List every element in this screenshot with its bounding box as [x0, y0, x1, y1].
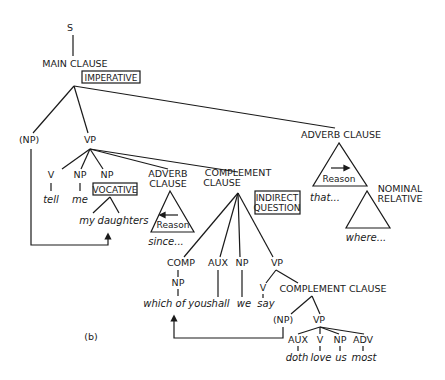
- node-complement-clause-line2: CLAUSE: [203, 177, 241, 188]
- syntax-tree-diagram: S MAIN CLAUSE IMPERATIVE (NP) VP V tell …: [0, 0, 445, 380]
- edge: [184, 193, 238, 257]
- label-reason-2: Reason: [323, 174, 356, 184]
- node-vp-inner: VP: [313, 314, 325, 325]
- node-np-subject: (NP): [19, 134, 39, 145]
- word-tell: tell: [43, 194, 59, 205]
- word-which-of-you: which of you: [143, 298, 207, 309]
- node-comp-np: NP: [172, 277, 185, 288]
- word-love: love: [311, 352, 332, 363]
- word-me: me: [72, 194, 88, 205]
- label-imperative: IMPERATIVE: [85, 73, 138, 83]
- label-indirect: INDIRECT: [256, 193, 299, 203]
- node-nominal-relative-line2: RELATIVE: [378, 193, 423, 204]
- word-daughters: daughters: [98, 215, 149, 226]
- edge: [238, 193, 240, 257]
- node-v-inner: V: [317, 334, 324, 345]
- edge: [312, 296, 320, 314]
- node-np-we: NP: [236, 257, 249, 268]
- node-v-say: V: [260, 282, 267, 293]
- edge: [110, 197, 119, 213]
- node-np-me: NP: [74, 169, 87, 180]
- node-s: S: [67, 22, 73, 33]
- node-adverb-clause-2: ADVERB CLAUSE: [301, 129, 381, 140]
- word-my: my: [79, 215, 96, 226]
- label-question: QUESTION: [253, 203, 300, 213]
- node-np-vocative: NP: [101, 169, 114, 180]
- label-vocative: VOCATIVE: [93, 185, 138, 195]
- tree-svg: S MAIN CLAUSE IMPERATIVE (NP) VP V tell …: [0, 0, 445, 380]
- node-complement-clause-2: COMPLEMENT CLAUSE: [279, 283, 386, 294]
- word-say: say: [257, 298, 275, 309]
- word-us: us: [335, 352, 347, 363]
- word-since: since...: [148, 236, 184, 247]
- label-reason-1: Reason: [157, 220, 190, 230]
- edge: [220, 193, 238, 257]
- node-aux-inner: AUX: [288, 334, 308, 345]
- word-most: most: [352, 352, 378, 363]
- node-np-us: NP: [334, 334, 347, 345]
- word-shall: shall: [206, 298, 229, 309]
- edge: [93, 197, 110, 213]
- word-doth: doth: [286, 352, 309, 363]
- word-that: that...: [310, 192, 340, 203]
- edge: [74, 86, 335, 128]
- word-we: we: [237, 298, 251, 309]
- edge: [320, 327, 364, 334]
- node-v: V: [48, 169, 55, 180]
- node-aux: AUX: [208, 257, 228, 268]
- node-vp-main: VP: [84, 134, 96, 145]
- figure-caption: (b): [84, 331, 97, 342]
- edge: [74, 86, 88, 133]
- edge: [291, 296, 312, 314]
- edge: [298, 327, 320, 334]
- node-main-clause: MAIN CLAUSE: [42, 58, 107, 69]
- edge: [276, 270, 298, 283]
- word-where: where...: [346, 232, 386, 243]
- movement-arrow-wh: [174, 318, 283, 338]
- node-comp: COMP: [167, 257, 195, 268]
- edge: [266, 270, 276, 283]
- node-adv: ADV: [353, 334, 374, 345]
- edge: [33, 86, 74, 133]
- node-vp-say: VP: [271, 257, 283, 268]
- node-np-inner: (NP): [273, 314, 293, 325]
- node-adverb-clause-1-line2: CLAUSE: [149, 178, 187, 189]
